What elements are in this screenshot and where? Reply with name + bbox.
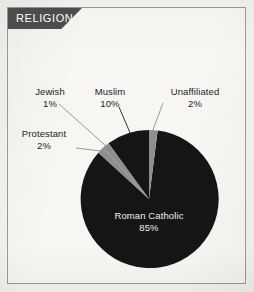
pie-label-roman-catholic: Roman Catholic 85% <box>99 210 199 233</box>
pie-label-protestant-percent: 2% <box>12 140 76 152</box>
pie-label-jewish: Jewish 1% <box>24 86 76 109</box>
pie-label-roman-catholic-name: Roman Catholic <box>115 210 184 221</box>
section-banner: RELIGION <box>8 8 103 29</box>
leader-line-muslim <box>119 107 131 135</box>
pie-label-protestant-name: Protestant <box>22 128 66 139</box>
pie-label-muslim: Muslim 10% <box>84 86 136 109</box>
pie-label-roman-catholic-percent: 85% <box>99 222 199 234</box>
pie-label-muslim-percent: 10% <box>84 98 136 110</box>
pie-label-muslim-name: Muslim <box>95 86 126 97</box>
section-banner-label: RELIGION <box>8 8 73 29</box>
leader-line-protestant <box>76 148 101 151</box>
pie-label-unaffiliated: Unaffiliated 2% <box>160 86 230 109</box>
pie-label-jewish-percent: 1% <box>24 98 76 110</box>
pie-label-unaffiliated-name: Unaffiliated <box>171 86 220 97</box>
religion-pie-chart-figure: RELIGION Jewish 1% Protestant 2% Muslim … <box>0 0 254 292</box>
pie-label-protestant: Protestant 2% <box>12 128 76 151</box>
pie-label-unaffiliated-percent: 2% <box>160 98 230 110</box>
pie-label-jewish-name: Jewish <box>35 86 65 97</box>
